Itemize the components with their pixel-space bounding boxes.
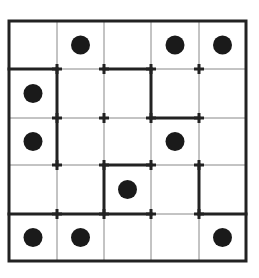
grid-cell[interactable] <box>9 165 57 214</box>
puzzle-board[interactable] <box>0 0 259 278</box>
grid-cell[interactable] <box>104 118 151 165</box>
dot-icon <box>213 228 232 247</box>
grid-cells[interactable] <box>9 21 246 261</box>
dot-icon <box>71 228 90 247</box>
dot-icon <box>118 180 137 199</box>
grid-cell[interactable] <box>199 118 246 165</box>
dot-icon <box>71 36 90 55</box>
grid-cell[interactable] <box>151 214 199 261</box>
grid-cell[interactable] <box>104 214 151 261</box>
grid-cell[interactable] <box>199 69 246 118</box>
grid-cell[interactable] <box>9 21 57 69</box>
dot-icon <box>24 84 43 103</box>
dot-icon <box>213 36 232 55</box>
grid-cell[interactable] <box>57 118 104 165</box>
dot-icon <box>166 36 185 55</box>
grid-cell[interactable] <box>151 165 199 214</box>
grid-cell[interactable] <box>104 21 151 69</box>
dot-icon <box>24 228 43 247</box>
grid-cell[interactable] <box>104 69 151 118</box>
grid-cell[interactable] <box>57 165 104 214</box>
grid-cell[interactable] <box>57 69 104 118</box>
dot-icon <box>24 132 43 151</box>
grid-cell[interactable] <box>199 165 246 214</box>
dot-icon <box>166 132 185 151</box>
grid-cell[interactable] <box>151 69 199 118</box>
